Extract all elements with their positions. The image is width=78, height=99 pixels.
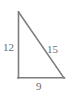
side-label-vertical-leg: 12 [3,42,14,53]
side-label-hypotenuse: 15 [47,44,58,55]
side-label-base: 9 [36,81,42,92]
triangle-figure: 12 15 9 [0,0,78,99]
